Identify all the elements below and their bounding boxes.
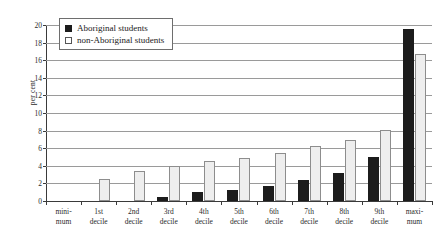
x-axis-label-line: mini- — [46, 207, 81, 217]
x-tick-mark — [327, 201, 328, 205]
y-tick-label-12: 12 — [35, 91, 43, 100]
bar-group — [397, 25, 432, 201]
x-tick-mark — [221, 201, 222, 205]
bar-non-aboriginal — [134, 171, 145, 201]
x-axis-label-line: 6th — [257, 207, 292, 217]
x-axis-label-line: mum — [397, 217, 432, 227]
bar-non-aboriginal — [99, 179, 110, 201]
bar-group — [292, 25, 327, 201]
bar-group — [151, 25, 186, 201]
legend-item-1: non-Aboriginal students — [65, 34, 164, 46]
x-tick-mark — [186, 201, 187, 205]
y-tick-label-6: 6 — [38, 144, 42, 153]
bar-group — [46, 25, 81, 201]
x-axis-label-10: maxi-mum — [397, 207, 432, 226]
x-axis-label-2: 2nddecile — [116, 207, 151, 226]
bar-aboriginal — [227, 190, 238, 201]
bar-aboriginal — [263, 186, 274, 201]
x-tick-mark — [151, 201, 152, 205]
bar-non-aboriginal — [310, 146, 321, 201]
x-axis-label-line: 5th — [221, 207, 256, 217]
bar-series-container — [46, 25, 432, 201]
bar-aboriginal — [298, 180, 309, 201]
x-axis-label-line: mum — [46, 217, 81, 227]
y-tick-label-2: 2 — [38, 179, 42, 188]
bar-non-aboriginal — [239, 158, 250, 201]
bar-non-aboriginal — [345, 140, 356, 201]
x-axis-label-9: 9thdecile — [362, 207, 397, 226]
bar-group — [186, 25, 221, 201]
x-tick-mark — [46, 201, 47, 205]
legend-label: Aboriginal students — [77, 23, 148, 33]
x-axis-label-line: maxi- — [397, 207, 432, 217]
x-axis-label-4: 4thdecile — [186, 207, 221, 226]
x-axis-label-7: 7thdecile — [292, 207, 327, 226]
x-axis-label-8: 8thdecile — [327, 207, 362, 226]
legend-label: non-Aboriginal students — [77, 35, 164, 45]
x-tick-mark — [292, 201, 293, 205]
y-tick-label-18: 18 — [35, 38, 43, 47]
x-axis-label-3: 3rddecile — [151, 207, 186, 226]
bar-non-aboriginal — [169, 166, 180, 201]
bar-aboriginal — [368, 157, 379, 201]
y-tick-label-10: 10 — [35, 109, 43, 118]
bar-group — [221, 25, 256, 201]
x-axis-label-line: 7th — [292, 207, 327, 217]
legend-item-0: Aboriginal students — [65, 22, 164, 34]
x-tick-mark — [257, 201, 258, 205]
bar-chart: per cent 02468101214161820 mini-mum1stde… — [0, 0, 436, 245]
x-tick-mark — [81, 201, 82, 205]
x-axis-label-line: decile — [292, 217, 327, 227]
x-axis-label-line: 2nd — [116, 207, 151, 217]
y-tick-label-0: 0 — [38, 197, 42, 206]
x-tick-mark — [397, 201, 398, 205]
plot-area: 02468101214161820 — [46, 25, 432, 201]
bar-non-aboriginal — [380, 130, 391, 201]
x-axis-label-line: decile — [257, 217, 292, 227]
bar-group — [327, 25, 362, 201]
x-axis-label-line: 1st — [81, 207, 116, 217]
x-axis-label-6: 6thdecile — [257, 207, 292, 226]
y-tick-label-14: 14 — [35, 73, 43, 82]
y-tick-label-4: 4 — [38, 161, 42, 170]
x-axis-label-line: decile — [116, 217, 151, 227]
x-axis-label-line: decile — [186, 217, 221, 227]
y-tick-label-8: 8 — [38, 126, 42, 135]
bar-aboriginal — [403, 29, 414, 201]
bar-group — [116, 25, 151, 201]
legend-swatch-light — [65, 37, 72, 44]
legend-swatch-dark — [65, 25, 72, 32]
bar-group — [257, 25, 292, 201]
bar-aboriginal — [333, 173, 344, 201]
x-tick-mark — [362, 201, 363, 205]
bar-group — [362, 25, 397, 201]
x-axis-labels: mini-mum1stdecile2nddecile3rddecile4thde… — [46, 207, 432, 241]
x-axis-label-1: 1stdecile — [81, 207, 116, 226]
bar-non-aboriginal — [275, 153, 286, 201]
x-tick-mark — [432, 201, 433, 205]
x-axis-label-line: 9th — [362, 207, 397, 217]
chart-legend: Aboriginal studentsnon-Aboriginal studen… — [59, 18, 173, 50]
bar-group — [81, 25, 116, 201]
y-tick-label-20: 20 — [35, 21, 43, 30]
x-axis-label-line: decile — [151, 217, 186, 227]
x-axis-label-line: decile — [362, 217, 397, 227]
x-axis-label-5: 5thdecile — [221, 207, 256, 226]
x-axis-label-line: 4th — [186, 207, 221, 217]
x-tick-mark — [116, 201, 117, 205]
x-axis-label-line: 8th — [327, 207, 362, 217]
y-tick-label-16: 16 — [35, 56, 43, 65]
x-axis-label-line: 3rd — [151, 207, 186, 217]
x-axis-label-0: mini-mum — [46, 207, 81, 226]
x-axis-label-line: decile — [221, 217, 256, 227]
x-axis-label-line: decile — [81, 217, 116, 227]
x-axis-ticks — [46, 201, 432, 206]
x-axis-label-line: decile — [327, 217, 362, 227]
bar-non-aboriginal — [204, 161, 215, 201]
bar-non-aboriginal — [415, 54, 426, 201]
bar-aboriginal — [192, 192, 203, 201]
